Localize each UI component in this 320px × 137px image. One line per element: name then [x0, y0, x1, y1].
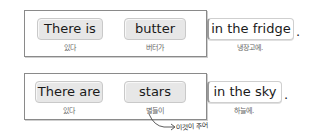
pill-there-is: There is [37, 18, 103, 40]
korean-in-the-sky: 하늘에. [207, 105, 281, 115]
korean-there-are: 있다 [35, 105, 103, 115]
pill-there-are: There are [35, 81, 103, 103]
pill-in-the-sky: in the sky [207, 81, 282, 103]
pill-in-the-fridge: in the fridge [207, 18, 294, 40]
period-1: . [296, 25, 300, 38]
handwritten-note: 이것이 주어 [176, 120, 209, 132]
pill-butter: butter [124, 18, 186, 40]
korean-in-the-fridge: 냉장고에. [207, 42, 293, 52]
korean-butter: 버터가 [124, 42, 186, 52]
period-2: . [284, 88, 288, 101]
pill-stars: stars [124, 81, 186, 103]
korean-there-is: 있다 [37, 42, 103, 52]
